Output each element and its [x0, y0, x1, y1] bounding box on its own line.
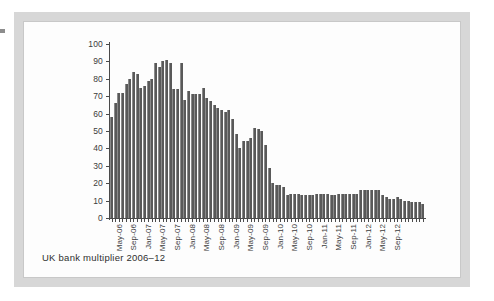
bar — [385, 197, 388, 218]
bar — [128, 79, 131, 218]
x-axis-tick-label: Jan-11 — [320, 224, 329, 248]
bar — [268, 168, 271, 218]
x-axis-tick — [258, 218, 259, 222]
plot-area: 0102030405060708090100 May-06Sep-06Jan-0… — [110, 44, 425, 218]
bar — [275, 185, 278, 218]
bar — [260, 131, 263, 218]
bar — [187, 91, 190, 218]
bar — [363, 190, 366, 218]
bar — [322, 194, 325, 218]
bar — [183, 100, 186, 218]
x-axis-tick — [302, 218, 303, 222]
bar — [209, 101, 212, 218]
bar — [297, 194, 300, 218]
bar — [399, 199, 402, 218]
x-axis-tick — [375, 218, 376, 222]
x-axis-tick — [214, 218, 215, 222]
y-axis-tick-label: 20 — [93, 178, 103, 188]
bar — [396, 197, 399, 218]
bar — [114, 103, 117, 218]
figure-frame: 0102030405060708090100 May-06Sep-06Jan-0… — [14, 12, 470, 287]
x-axis-tick — [306, 218, 307, 222]
x-axis-tick — [342, 218, 343, 222]
bar — [330, 195, 333, 218]
bar — [304, 195, 307, 218]
bar — [410, 202, 413, 218]
bar — [198, 94, 201, 218]
bar-chart: 0102030405060708090100 May-06Sep-06Jan-0… — [24, 22, 460, 277]
x-axis-tick — [221, 218, 222, 222]
x-axis-tick-label: Jan-09 — [232, 224, 241, 249]
bar — [165, 60, 168, 218]
bar — [278, 185, 281, 218]
x-axis-tick-label: May-08 — [202, 224, 211, 251]
y-axis-tick — [106, 218, 110, 219]
x-axis-tick — [196, 218, 197, 222]
bar — [300, 195, 303, 218]
x-axis-tick — [269, 218, 270, 222]
x-axis-tick — [119, 218, 120, 222]
bar — [224, 112, 227, 218]
bar — [216, 108, 219, 218]
x-axis-tick-label: Sep-09 — [261, 224, 270, 250]
bar — [352, 194, 355, 218]
x-axis-tick — [262, 218, 263, 222]
y-axis-tick-label: 0 — [98, 213, 103, 223]
x-axis-tick — [309, 218, 310, 222]
x-axis-tick-label: Sep-11 — [349, 224, 358, 250]
x-axis-tick — [199, 218, 200, 222]
bar — [150, 79, 153, 218]
x-axis-tick-label: Jan-07 — [144, 224, 153, 249]
x-axis-tick-label: Sep-08 — [217, 224, 226, 250]
x-axis-tick — [163, 218, 164, 222]
page-edge-mark — [0, 29, 5, 33]
x-axis-tick — [254, 218, 255, 222]
bar — [147, 81, 150, 218]
bar — [388, 199, 391, 218]
bar — [421, 204, 424, 218]
x-axis-tick — [247, 218, 248, 222]
bar — [169, 63, 172, 218]
x-axis-tick — [229, 218, 230, 222]
bar — [370, 190, 373, 218]
x-axis-tick — [401, 218, 402, 222]
bar — [381, 195, 384, 218]
bar — [315, 194, 318, 218]
bar — [282, 187, 285, 218]
bar — [293, 194, 296, 218]
bar — [121, 93, 124, 218]
x-axis-tick — [155, 218, 156, 222]
x-axis-tick — [287, 218, 288, 222]
y-axis-tick-label: 90 — [93, 56, 103, 66]
bar — [355, 194, 358, 218]
bar — [377, 190, 380, 218]
bar — [227, 110, 230, 218]
y-axis-tick — [106, 114, 110, 115]
x-axis-tick-label: Sep-10 — [305, 224, 314, 250]
x-axis-tick — [181, 218, 182, 222]
x-axis-tick — [397, 218, 398, 222]
bar — [289, 194, 292, 218]
x-axis-tick-label: Sep-06 — [129, 224, 138, 250]
x-axis-tick — [177, 218, 178, 222]
x-axis-tick — [324, 218, 325, 222]
x-axis-tick — [185, 218, 186, 222]
x-axis-tick — [408, 218, 409, 222]
x-axis-tick — [331, 218, 332, 222]
x-axis-tick — [284, 218, 285, 222]
x-axis-tick — [276, 218, 277, 222]
x-axis-tick — [207, 218, 208, 222]
x-axis-tick — [313, 218, 314, 222]
x-axis-tick — [368, 218, 369, 222]
x-axis-tick — [188, 218, 189, 222]
x-axis-tick — [236, 218, 237, 222]
x-axis-tick — [152, 218, 153, 222]
bar — [264, 145, 267, 218]
bar — [311, 195, 314, 218]
x-axis-tick — [126, 218, 127, 222]
x-axis-tick — [174, 218, 175, 222]
x-axis-tick — [273, 218, 274, 222]
y-axis-tick-label: 70 — [93, 91, 103, 101]
x-axis-tick — [412, 218, 413, 222]
x-axis-tick — [416, 218, 417, 222]
